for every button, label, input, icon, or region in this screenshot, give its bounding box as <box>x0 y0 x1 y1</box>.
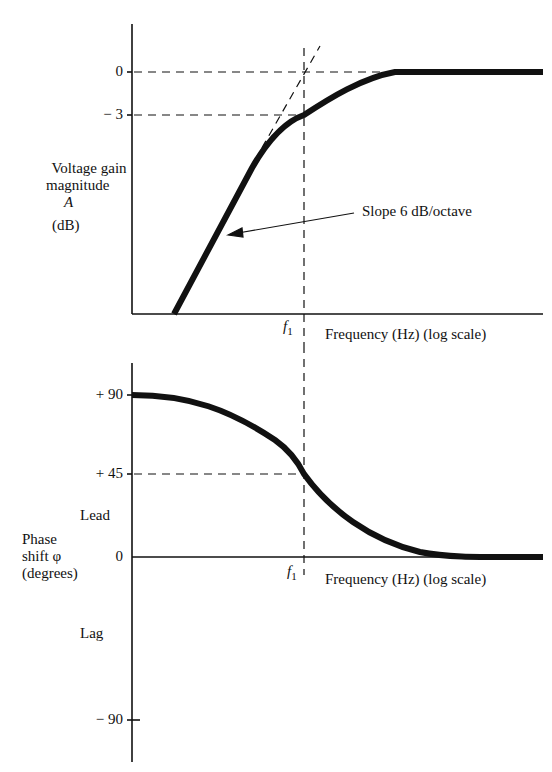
tick-label-0db: 0 <box>80 63 123 80</box>
region-label-lag: Lag <box>80 625 103 642</box>
y-label-line: A <box>46 194 132 211</box>
magnitude-curve <box>174 72 543 314</box>
tick-label-plus45: + 45 <box>70 465 123 482</box>
tick-label-minus90: − 90 <box>70 711 123 728</box>
magnitude-reference-lines <box>134 46 400 345</box>
slope-annotation: Slope 6 dB/octave <box>362 203 472 220</box>
magnitude-y-label: Voltage gain magnitude A (dB) <box>46 160 132 234</box>
f-subscript: 1 <box>291 570 297 582</box>
y-label-line: (dB) <box>46 217 132 234</box>
phase-curve <box>132 395 543 557</box>
region-label-lead: Lead <box>80 507 110 524</box>
slope-arrow <box>228 213 354 237</box>
f1-marker-top: f1 <box>283 318 293 340</box>
y-label-line: magnitude <box>46 177 132 194</box>
phase-reference-lines <box>134 345 304 575</box>
phase-x-label: Frequency (Hz) (log scale) <box>325 571 486 588</box>
phase-axes <box>127 363 543 762</box>
tick-label-zero: 0 <box>70 548 123 565</box>
f1-marker-bottom: f1 <box>287 563 297 585</box>
f-subscript: 1 <box>287 325 293 337</box>
y-label-line: (degrees) <box>22 565 78 582</box>
tick-label-plus90: + 90 <box>70 386 123 403</box>
tick-label-minus3db: − 3 <box>80 106 123 123</box>
y-label-line: Phase <box>22 531 78 548</box>
magnitude-x-label: Frequency (Hz) (log scale) <box>325 326 486 343</box>
y-label-line: Voltage gain <box>46 160 132 177</box>
magnitude-axes <box>127 24 543 314</box>
